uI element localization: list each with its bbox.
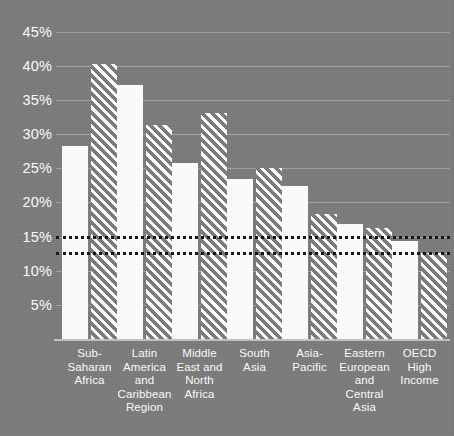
x-axis-label-line: Region <box>117 401 172 415</box>
x-axis-label: LatinAmericaandCaribbeanRegion <box>117 347 172 415</box>
y-axis: 45%40%35%30%25%20%15%10%5% <box>0 0 52 436</box>
bar-hatched <box>91 64 117 339</box>
bar-groups <box>58 0 450 339</box>
x-axis-label-line: and <box>337 374 392 388</box>
y-axis-tick-label: 5% <box>31 297 52 313</box>
y-axis-tick-label: 30% <box>22 126 52 142</box>
x-axis-label: MiddleEast andNorthAfrica <box>172 347 227 415</box>
bar-solid <box>62 146 88 339</box>
plot-area <box>58 0 450 341</box>
x-axis-label: Asia-Pacific <box>282 347 337 415</box>
y-axis-tick-label: 40% <box>22 58 52 74</box>
x-axis-label-line: and <box>117 374 172 388</box>
bar-hatched <box>146 125 172 339</box>
x-axis-label-line: Africa <box>172 388 227 402</box>
bar-solid <box>117 85 143 339</box>
bar-group <box>337 0 392 339</box>
upper-reference-line <box>56 236 450 239</box>
x-axis-label: EasternEuropeanandCentralAsia <box>337 347 392 415</box>
bar-group <box>117 0 172 339</box>
x-axis-label-line: Caribbean <box>117 388 172 402</box>
x-axis-label-line: South <box>227 347 282 361</box>
y-axis-tick-label: 25% <box>22 160 52 176</box>
bar-hatched <box>311 214 337 339</box>
x-axis-label-line: Asia <box>227 361 282 375</box>
y-axis-tick-label: 10% <box>22 263 52 279</box>
x-axis-label-line: European <box>337 361 392 375</box>
x-axis-label-line: OECD <box>392 347 447 361</box>
bar-hatched <box>366 228 392 339</box>
x-axis-label-line: Asia <box>337 401 392 415</box>
bar-group <box>62 0 117 339</box>
x-axis-label-line: Central <box>337 388 392 402</box>
x-axis-label: SouthAsia <box>227 347 282 415</box>
x-axis-label-line: Africa <box>62 374 117 388</box>
bar-hatched <box>421 253 447 339</box>
bar-hatched <box>201 113 227 339</box>
x-axis-label-line: North <box>172 374 227 388</box>
bar-solid <box>337 224 363 339</box>
bar-group <box>172 0 227 339</box>
lower-reference-line <box>56 252 450 255</box>
y-axis-tick-label: 35% <box>22 92 52 108</box>
x-axis-label-line: Middle <box>172 347 227 361</box>
bar-solid <box>392 241 418 339</box>
y-axis-tick-label: 15% <box>22 229 52 245</box>
x-axis-category-labels: Sub-SaharanAfricaLatinAmericaandCaribbea… <box>58 347 450 415</box>
bar-group <box>282 0 337 339</box>
bar-solid <box>282 186 308 339</box>
y-axis-tick-label: 20% <box>22 194 52 210</box>
bar-group <box>227 0 282 339</box>
x-axis-label-line: Eastern <box>337 347 392 361</box>
bar-solid <box>227 179 253 339</box>
x-axis-label-line: East and <box>172 361 227 375</box>
x-axis-label: Sub-SaharanAfrica <box>62 347 117 415</box>
x-axis-baseline <box>54 339 450 341</box>
bar-chart: 45%40%35%30%25%20%15%10%5% Sub-SaharanAf… <box>0 0 454 436</box>
x-axis-label-line: America <box>117 361 172 375</box>
x-axis-label: OECDHighIncome <box>392 347 447 415</box>
x-axis-label-line: High <box>392 361 447 375</box>
x-axis-label-line: Asia-Pacific <box>282 347 337 374</box>
x-axis-label-line: Sub-Saharan <box>62 347 117 374</box>
y-axis-tick-label: 45% <box>22 24 52 40</box>
bar-group <box>392 0 447 339</box>
x-axis-label-line: Income <box>392 374 447 388</box>
x-axis-label-line: Latin <box>117 347 172 361</box>
